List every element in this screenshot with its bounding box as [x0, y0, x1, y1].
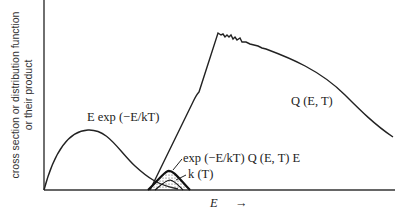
plot-area [0, 0, 417, 218]
boltzmann-label: E exp (−E/kT) [87, 110, 159, 125]
figure: cross section or distribution function o… [0, 0, 417, 218]
product-leader-line [173, 159, 182, 170]
x-axis-label: E [210, 196, 218, 211]
product-label: exp (−E/kT) Q (E, T) E [183, 151, 300, 166]
y-axis-label-line2: or their product [22, 12, 35, 179]
rate-label: k (T) [188, 167, 213, 182]
cross-section-label: Q (E, T) [291, 94, 333, 109]
y-axis-label-line1: cross section or distribution function [9, 12, 22, 179]
y-axis-label: cross section or distribution function o… [2, 0, 42, 190]
x-axis-arrow-icon: → [235, 196, 248, 211]
cross-section-curve [150, 33, 393, 190]
